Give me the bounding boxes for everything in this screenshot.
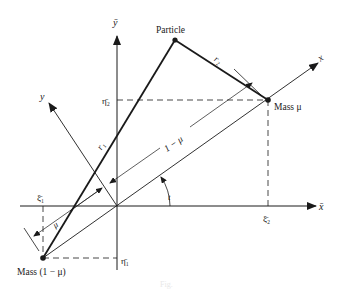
r1-label: r₁: [95, 141, 107, 152]
y-axis-label: y: [39, 91, 45, 102]
r1-line: [43, 40, 175, 258]
xbar-axis-label: x̄: [318, 201, 324, 212]
x-axis-rotating: [43, 63, 318, 258]
r2-line: [175, 40, 268, 100]
mass-mu-point: [265, 97, 271, 103]
eta2-label: η̄₂: [102, 96, 110, 106]
dimension-extension-left: [24, 228, 39, 251]
r2-label: r₂: [212, 54, 223, 66]
mass-mu-label: Mass μ: [274, 102, 302, 112]
dimension-extension-right: [234, 69, 262, 96]
dimension-one-minus-mu-label: 1 − μ: [162, 134, 185, 154]
dimension-one-minus-mu-segment-top: [190, 83, 252, 127]
figure-caption: Fig.: [160, 280, 173, 289]
eta1-label: η̄₁: [121, 256, 129, 266]
mass-one-minus-mu-point: [40, 255, 46, 261]
particle-label: Particle: [156, 25, 185, 35]
xi1-label: ξ̄₁: [37, 193, 44, 203]
dimension-mu-label: μ: [50, 219, 60, 230]
xi2-label: ξ̄₂: [263, 214, 270, 224]
particle-point: [172, 37, 177, 42]
ybar-axis-label: ȳ: [112, 17, 118, 28]
three-body-diagram: Particle Mass μ Mass (1 − μ) r₁ r₂ x y x…: [0, 0, 340, 292]
x-axis-label: x: [314, 52, 325, 64]
dimension-mu-segment-arrow: [70, 188, 102, 211]
angle-t-label: t: [168, 192, 171, 202]
mass-one-minus-mu-label: Mass (1 − μ): [17, 267, 66, 278]
